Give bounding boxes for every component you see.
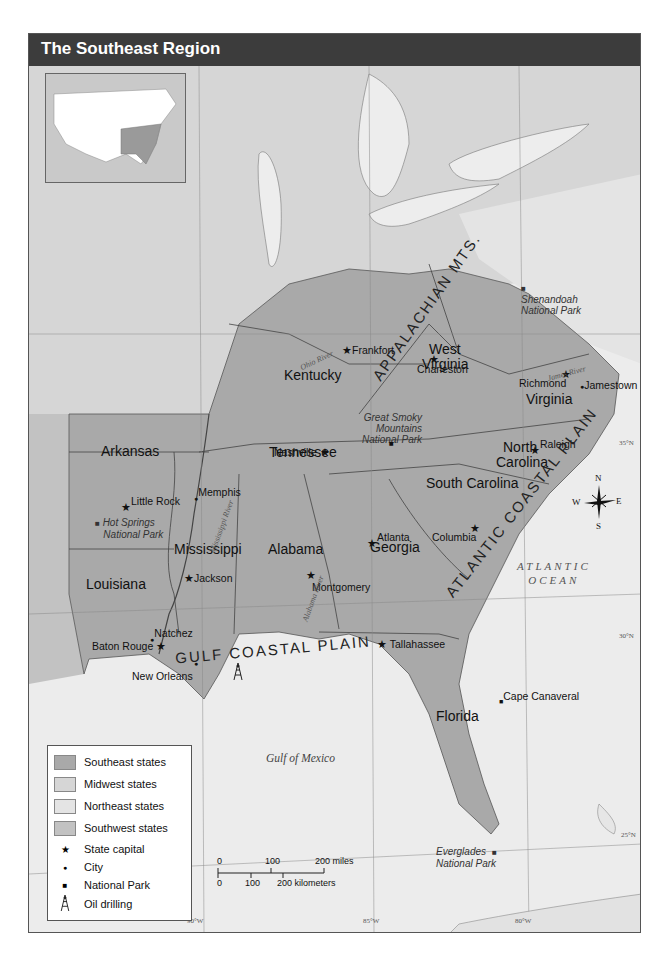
compass-n: N bbox=[595, 473, 602, 483]
map-legend: Southeast states Midwest states Northeas… bbox=[47, 745, 192, 921]
star-icon: ★ bbox=[429, 353, 439, 365]
compass-w: W bbox=[572, 497, 581, 507]
legend-item-national-park: ■ National Park bbox=[54, 876, 150, 894]
inset-locator-map bbox=[45, 73, 186, 183]
capital-nashville: Nashville ★ bbox=[274, 446, 330, 458]
park-hot-springs: ■ Hot Springs National Park bbox=[95, 517, 163, 540]
dot-icon: ● bbox=[54, 864, 76, 871]
star-icon: ★ bbox=[121, 501, 131, 513]
star-icon: ★ bbox=[184, 572, 194, 584]
legend-item-midwest: Midwest states bbox=[54, 775, 157, 793]
state-label-south-carolina: South Carolina bbox=[426, 475, 519, 491]
compass-rose: N S E W bbox=[576, 477, 622, 529]
capital-jackson: ★Jackson bbox=[184, 572, 233, 584]
compass-s: S bbox=[596, 521, 601, 531]
state-label-louisiana: Louisiana bbox=[86, 576, 146, 592]
legend-item-oil-drilling: Oil drilling bbox=[54, 895, 132, 913]
oil-derrick-icon bbox=[54, 895, 76, 913]
park-everglades: Everglades■National Park bbox=[436, 846, 497, 869]
square-icon: ■ bbox=[521, 284, 526, 293]
capital-charleston: ★Charleston bbox=[417, 363, 468, 375]
lat-label-35: 35°N bbox=[619, 439, 634, 447]
compass-e: E bbox=[616, 496, 622, 506]
legend-item-city: ● City bbox=[54, 858, 103, 876]
city-natchez: ●Natchez bbox=[150, 632, 193, 644]
lon-label-80: 80°W bbox=[515, 917, 531, 925]
legend-item-southeast: Southeast states bbox=[54, 753, 166, 771]
star-icon: ★ bbox=[377, 638, 387, 650]
us-inset-map bbox=[46, 74, 185, 182]
star-icon: ★ bbox=[367, 537, 377, 549]
square-icon: ■ bbox=[492, 848, 497, 857]
swatch-southeast bbox=[54, 755, 76, 770]
water-label-gulf-of-mexico: Gulf of Mexico bbox=[266, 752, 335, 764]
swatch-northeast bbox=[54, 799, 76, 814]
capital-atlanta: ★Atlanta bbox=[367, 537, 410, 549]
star-icon: ★ bbox=[342, 344, 352, 356]
oil-drilling-icon bbox=[233, 663, 243, 684]
state-label-alabama: Alabama bbox=[268, 541, 323, 557]
title-bar: The Southeast Region bbox=[29, 34, 640, 66]
state-label-arkansas: Arkansas bbox=[101, 443, 159, 459]
star-icon: ★ bbox=[54, 844, 76, 855]
city-jamestown: ●Jamestown bbox=[580, 379, 637, 391]
star-icon: ★ bbox=[470, 522, 480, 534]
lat-label-25: 25°N bbox=[621, 831, 636, 839]
map-frame: The Southeast Region bbox=[28, 33, 641, 933]
legend-item-northeast: Northeast states bbox=[54, 797, 164, 815]
capital-tallahassee: ★ Tallahassee bbox=[377, 638, 445, 650]
star-icon: ★ bbox=[320, 446, 330, 458]
lon-label-85: 85°W bbox=[363, 917, 379, 925]
scale-bar: 0 100 200 miles 0 100 200 kilometers bbox=[217, 856, 367, 906]
city-new-orleans: New Orleans● bbox=[132, 670, 193, 682]
lat-label-30: 30°N bbox=[619, 632, 634, 640]
city-cape-canaveral: ■Cape Canaveral bbox=[499, 694, 579, 706]
swatch-midwest bbox=[54, 777, 76, 792]
square-icon: ■ bbox=[54, 881, 76, 890]
star-icon: ★ bbox=[530, 444, 540, 456]
scale-bar-line bbox=[217, 868, 327, 878]
park-shenandoah: ■ShenandoahNational Park bbox=[521, 282, 581, 316]
capital-columbia: Columbia★ bbox=[432, 531, 476, 543]
state-label-florida: Florida bbox=[436, 708, 479, 724]
state-label-kentucky: Kentucky bbox=[284, 367, 342, 383]
square-icon-smoky: ■ bbox=[389, 439, 394, 448]
swatch-southwest bbox=[54, 821, 76, 836]
map-title: The Southeast Region bbox=[41, 39, 220, 59]
state-label-virginia: Virginia bbox=[526, 391, 572, 407]
capital-little-rock: ★Little Rock bbox=[121, 501, 180, 513]
legend-item-state-capital: ★ State capital bbox=[54, 840, 145, 858]
water-label-atlantic-ocean: ATLANTICOCEAN bbox=[517, 559, 591, 587]
square-icon: ■ bbox=[95, 519, 100, 528]
legend-item-southwest: Southwest states bbox=[54, 819, 168, 837]
